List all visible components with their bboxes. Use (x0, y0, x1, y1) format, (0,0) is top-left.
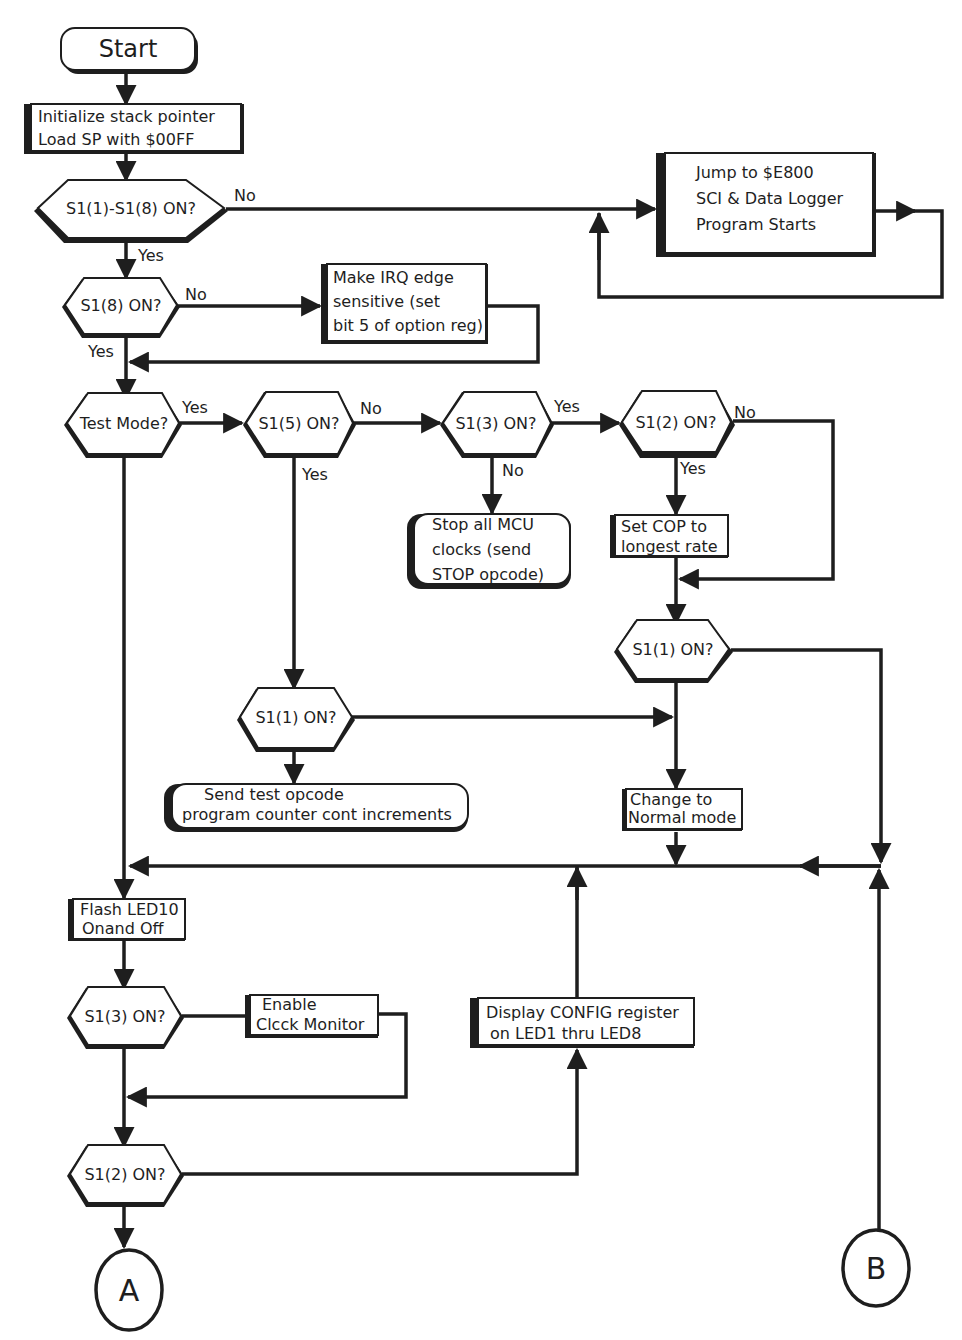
node-jump-e800: Jump to $E800 SCI & Data Logger Program … (656, 153, 876, 257)
decision-s13-lower-label: S1(3) ON? (84, 1007, 165, 1026)
cop-line-1: Set COP to (621, 517, 707, 536)
decision-test-label: Test Mode? (79, 414, 169, 433)
label-all-yes: Yes (137, 246, 164, 265)
node-decision-s12-upper: S1(2) ON? (619, 391, 735, 458)
decision-s12-lower-label: S1(2) ON? (84, 1165, 165, 1184)
node-set-cop: Set COP to longest rate (610, 515, 728, 558)
node-decision-s18: S1(8) ON? (62, 278, 180, 338)
label-s18-yes: Yes (87, 342, 114, 361)
node-init-sp: Initialize stack pointer Load SP with $0… (24, 104, 244, 154)
label-s13-no: No (502, 461, 524, 480)
send-test-line-1: Send test opcode (204, 785, 344, 804)
connector-b: B (843, 1230, 909, 1306)
connector-a-label: A (119, 1273, 140, 1308)
irq-line-1: Make IRQ edge (333, 268, 454, 287)
node-flash-led: Flash LED10 Onand Off (68, 899, 185, 941)
decision-all-label: S1(1)-S1(8) ON? (66, 199, 196, 218)
node-display-config: Display CONFIG register on LED1 thru LED… (470, 998, 694, 1048)
node-send-test: Send test opcode program counter cont in… (164, 784, 468, 832)
flowchart: Start Initialize stack pointer Load SP w… (0, 0, 962, 1340)
node-normal-mode: Change to Normal mode (622, 789, 742, 831)
normal-line-1: Change to (630, 790, 712, 809)
stop-line-3: STOP opcode) (432, 565, 544, 584)
start-label: Start (99, 35, 158, 63)
edge-s11a-right (731, 650, 881, 862)
display-line-1: Display CONFIG register (486, 1003, 679, 1022)
node-decision-test: Test Mode? (64, 393, 182, 458)
label-s18-no: No (185, 285, 207, 304)
cop-line-2: longest rate (621, 537, 718, 556)
node-stop-clocks: Stop all MCU clocks (send STOP opcode) (407, 514, 571, 589)
edge-s12b-right (182, 1050, 577, 1174)
decision-s11-upper-label: S1(1) ON? (632, 640, 713, 659)
label-s12-no: No (734, 403, 756, 422)
node-decision-s15: S1(5) ON? (243, 392, 356, 458)
flash-line-1: Flash LED10 (80, 900, 179, 919)
display-line-2: on LED1 thru LED8 (490, 1024, 641, 1043)
node-decision-all: S1(1)-S1(8) ON? (34, 180, 228, 243)
node-decision-s11-upper: S1(1) ON? (614, 620, 733, 683)
stop-line-1: Stop all MCU (432, 515, 534, 534)
node-decision-s13-lower: S1(3) ON? (67, 987, 184, 1049)
irq-line-3: bit 5 of option reg) (333, 316, 483, 335)
node-decision-s11-lower: S1(1) ON? (237, 688, 355, 752)
decision-s15-label: S1(5) ON? (258, 414, 339, 433)
node-irq-edge: Make IRQ edge sensitive (set bit 5 of op… (321, 264, 488, 344)
label-s15-yes: Yes (301, 465, 328, 484)
connector-b-label: B (866, 1251, 887, 1286)
clock-line-1: Enable (262, 995, 317, 1014)
label-s13-yes: Yes (553, 397, 580, 416)
jump-line-1: Jump to $E800 (695, 163, 814, 182)
connector-a: A (96, 1250, 162, 1330)
decision-s13-upper-label: S1(3) ON? (455, 414, 536, 433)
clock-line-2: Clcck Monitor (256, 1015, 365, 1034)
init-sp-line-1: Initialize stack pointer (38, 107, 215, 126)
decision-s11-lower-label: S1(1) ON? (255, 708, 336, 727)
normal-line-2: Normal mode (628, 808, 736, 827)
irq-line-2: sensitive (set (333, 292, 440, 311)
send-test-line-2: program counter cont increments (182, 805, 452, 824)
jump-line-3: Program Starts (696, 215, 816, 234)
decision-s18-label: S1(8) ON? (80, 296, 161, 315)
decision-s12-upper-label: S1(2) ON? (635, 413, 716, 432)
jump-line-2: SCI & Data Logger (696, 189, 844, 208)
init-sp-line-2: Load SP with $00FF (38, 130, 194, 149)
flash-line-2: Onand Off (82, 919, 165, 938)
node-decision-s12-lower: S1(2) ON? (67, 1145, 184, 1207)
node-decision-s13-upper: S1(3) ON? (440, 392, 554, 458)
label-all-no: No (234, 186, 256, 205)
node-clock-monitor: Enable Clcck Monitor (245, 995, 378, 1038)
label-s12-yes: Yes (679, 459, 706, 478)
label-test-yes: Yes (181, 398, 208, 417)
node-start: Start (61, 28, 198, 74)
stop-line-2: clocks (send (432, 540, 531, 559)
label-s15-no: No (360, 399, 382, 418)
